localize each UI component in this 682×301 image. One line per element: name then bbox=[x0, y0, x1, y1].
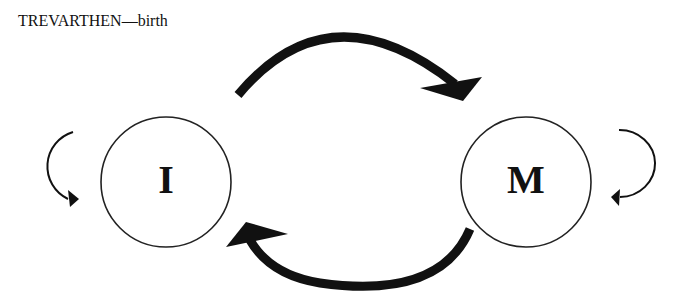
self-loop-i bbox=[47, 132, 79, 207]
arrow-m-to-i bbox=[226, 222, 470, 286]
diagram-graphics bbox=[0, 0, 682, 301]
node-i-label: I bbox=[101, 156, 231, 203]
arrow-i-to-m bbox=[238, 37, 482, 101]
diagram-canvas: TREVARTHEN—birth I M bbox=[0, 0, 682, 301]
self-loop-m bbox=[611, 130, 655, 206]
node-m-label: M bbox=[461, 156, 591, 203]
